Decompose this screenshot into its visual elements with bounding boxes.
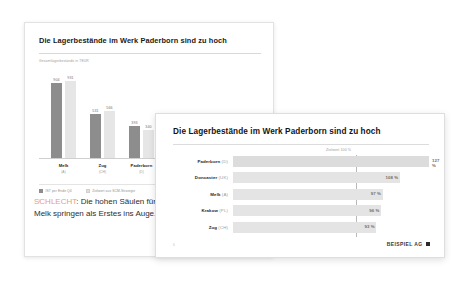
- bar-fill: [233, 222, 376, 233]
- column-value: 393: [131, 121, 137, 125]
- bar-label-paderborn: Paderborn (D): [173, 159, 233, 164]
- column-group-melk: 904 931: [51, 71, 76, 159]
- bar-label-country: (CH): [218, 225, 228, 230]
- bar-label-krakow: Krakow (PL): [173, 208, 233, 213]
- slide-back-title: Die Lagerbestände im Werk Paderborn sind…: [39, 37, 264, 46]
- bar-value: 96 %: [369, 208, 379, 213]
- column-value: 340: [145, 125, 151, 129]
- column-bar-ziel: [143, 130, 154, 159]
- legend-swatch-icon: [39, 189, 43, 193]
- category-label: Zug: [90, 163, 115, 168]
- bar-label-text: Doncaster: [195, 175, 217, 180]
- column-bar-ist: [51, 83, 62, 159]
- bar-fill: [233, 205, 381, 216]
- bar-fill: [233, 156, 429, 167]
- column-group-paderborn: 393 340: [129, 71, 154, 159]
- category-country: (A): [51, 170, 76, 174]
- slide-back-subtitle: Gesamtlagerbestände in TEUR: [39, 59, 89, 63]
- slide-front-title-rule: [173, 144, 429, 145]
- bar-row-melk: Melk (A) 97 %: [173, 188, 429, 200]
- category-country: (D): [129, 170, 154, 174]
- slide-front-footer: BEISPIEL AG: [387, 241, 430, 247]
- target-line-label: Zielwert 100 %: [326, 148, 351, 152]
- slide-back-title-rule: [39, 53, 261, 54]
- bar-label-country: (A): [222, 192, 228, 197]
- bar-value: 93 %: [364, 224, 374, 229]
- category-melk: Melk (A): [51, 163, 76, 174]
- column-bar-ist: [129, 126, 140, 159]
- bar-label-country: (PL): [219, 208, 228, 213]
- category-zug: Zug (CH): [90, 163, 115, 174]
- column-bar-ist: [90, 114, 101, 159]
- legend-item-ziel: Zielwert aus SCM-Strategie: [86, 189, 135, 193]
- bar-label-melk: Melk (A): [173, 192, 233, 197]
- bar-label-country: (D): [222, 159, 228, 164]
- bar-label-zug: Zug (CH): [173, 225, 233, 230]
- category-country: (CH): [90, 170, 115, 174]
- bar-label-doncaster: Doncaster (UK): [173, 175, 233, 180]
- bar-value: 97 %: [371, 191, 381, 196]
- column-bar-ziel: [65, 81, 76, 159]
- column-value: 904: [53, 78, 59, 82]
- bar-value: 108 %: [386, 175, 399, 180]
- bar-label-text: Melk: [210, 192, 220, 197]
- category-label: Melk: [51, 163, 76, 168]
- legend-label: IST per Ende Q4: [46, 189, 72, 193]
- column-bar-ziel: [104, 111, 115, 159]
- legend-swatch-icon: [86, 189, 90, 193]
- column-group-zug: 531 566: [90, 71, 115, 159]
- bar-label-text: Zug: [209, 225, 217, 230]
- column-value: 931: [67, 76, 73, 80]
- bar-label-text: Paderborn: [197, 159, 220, 164]
- category-label: Paderborn: [129, 163, 154, 168]
- bar-label-country: (UK): [219, 175, 228, 180]
- slide-front[interactable]: Die Lagerbestände im Werk Paderborn sind…: [155, 113, 445, 258]
- bar-fill: [233, 189, 383, 200]
- slide-front-title: Die Lagerbestände im Werk Paderborn sind…: [173, 127, 428, 136]
- caption-tag: SCHLECHT: [34, 197, 76, 206]
- column-value: 531: [92, 109, 98, 113]
- category-paderborn: Paderborn (D): [129, 163, 154, 174]
- bar-value: 127 %: [432, 158, 439, 168]
- caption-block: SCHLECHT: Die hohen Säulen für Melk spri…: [34, 196, 169, 221]
- bar-row-doncaster: Doncaster (UK) 108 %: [173, 172, 429, 184]
- company-logo-icon: [426, 242, 431, 247]
- footer-company-name: BEISPIEL AG: [387, 241, 423, 247]
- bar-row-zug: Zug (CH) 93 %: [173, 221, 429, 233]
- column-value: 566: [106, 106, 112, 110]
- bar-row-paderborn: Paderborn (D) 127 %: [173, 155, 429, 167]
- bar-label-text: Krakow: [202, 208, 218, 213]
- slide-front-page-number: 6: [173, 243, 175, 247]
- bar-row-krakow: Krakow (PL) 96 %: [173, 205, 429, 217]
- bar-fill: [233, 172, 400, 183]
- horizontal-bar-chart: Paderborn (D) 127 % Doncaster (UK) 108 %…: [173, 155, 429, 238]
- legend-label: Zielwert aus SCM-Strategie: [92, 189, 135, 193]
- legend-item-ist: IST per Ende Q4: [39, 189, 72, 193]
